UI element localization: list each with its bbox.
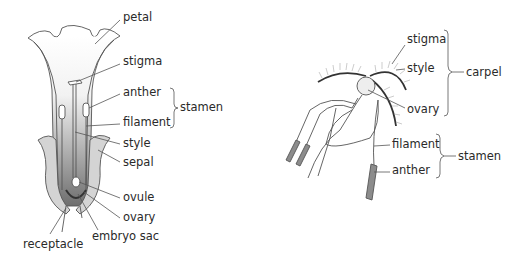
label-style: style	[123, 138, 151, 150]
petal-rim	[28, 25, 120, 38]
label-stigma-right: stigma	[407, 34, 446, 46]
label-ovary-right: ovary	[407, 104, 439, 116]
label-sepal: sepal	[123, 157, 154, 169]
label-filament: filament	[123, 117, 171, 129]
label-style-right: style	[407, 63, 435, 75]
anther-left	[59, 105, 65, 119]
label-ovule: ovule	[123, 192, 154, 204]
label-stamen-right: stamen	[458, 151, 501, 163]
anther-2	[296, 144, 310, 166]
label-anther: anther	[123, 87, 161, 99]
label-stigma: stigma	[123, 56, 162, 68]
label-filament-right: filament	[392, 139, 440, 151]
label-anther-right: anther	[392, 165, 430, 177]
label-petal: petal	[123, 12, 152, 24]
anther-1	[286, 140, 300, 162]
label-stamen-left: stamen	[180, 102, 223, 114]
label-embryo-sac: embryo sac	[92, 231, 159, 243]
label-carpel: carpel	[466, 67, 502, 79]
label-ovary: ovary	[123, 212, 155, 224]
anther-right	[83, 103, 89, 117]
anther-3	[366, 164, 377, 200]
label-receptacle: receptacle	[23, 239, 83, 251]
ovule	[72, 177, 80, 187]
stigma-feather-right	[370, 72, 406, 90]
grass-flower	[286, 61, 410, 200]
flower-section	[28, 25, 120, 232]
